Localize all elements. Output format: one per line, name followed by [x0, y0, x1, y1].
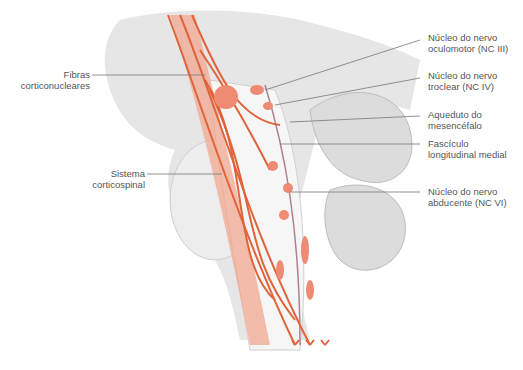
label-line: corticonucleares — [14, 80, 90, 91]
label-fasciculo-longitudinal: Fascículo longitudinal medial — [428, 138, 507, 160]
label-line: corticospinal — [60, 179, 145, 190]
label-line: Fibras — [14, 69, 90, 80]
label-sistema-corticospinal: Sistema corticospinal — [60, 168, 145, 190]
label-nucleo-oculomotor: Núcleo do nervo oculomotor (NC III) — [428, 32, 508, 54]
label-line: oculomotor (NC III) — [428, 43, 508, 54]
label-line: Núcleo do nervo — [428, 32, 508, 43]
label-nucleo-abducente: Núcleo do nervo abducente (NC VI) — [428, 186, 507, 208]
label-line: Aqueduto do — [428, 109, 482, 120]
label-line: troclear (NC IV) — [428, 81, 497, 92]
label-line: mesencéfalo — [428, 120, 482, 131]
cerebellum-upper — [310, 93, 412, 183]
label-line: Núcleo do nervo — [428, 70, 497, 81]
label-fibras-corticonucleares: Fibras corticonucleares — [14, 69, 90, 91]
label-line: Núcleo do nervo — [428, 186, 507, 197]
label-line: Fascículo — [428, 138, 507, 149]
label-line: longitudinal medial — [428, 149, 507, 160]
label-nucleo-troclear: Núcleo do nervo troclear (NC IV) — [428, 70, 497, 92]
cerebellum-lower — [325, 185, 406, 270]
label-line: abducente (NC VI) — [428, 197, 507, 208]
label-line: Sistema — [60, 168, 145, 179]
label-aqueduto-mesencefalo: Aqueduto do mesencéfalo — [428, 109, 482, 131]
